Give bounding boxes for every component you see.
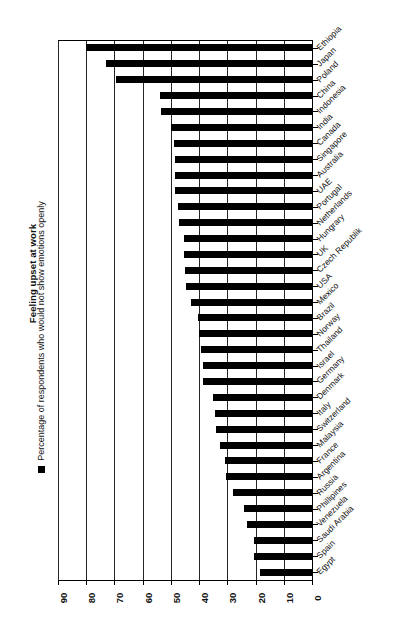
bar-row	[58, 346, 312, 353]
bar-row	[58, 60, 312, 67]
bar	[161, 108, 312, 115]
bar-row	[58, 473, 312, 480]
gridline-10	[284, 40, 285, 580]
bar	[199, 330, 312, 337]
bar	[244, 505, 312, 512]
bar	[178, 203, 312, 210]
bar	[226, 473, 312, 480]
bar-row	[58, 394, 312, 401]
gridline-30	[227, 40, 228, 580]
x-tick-label: 40	[199, 586, 210, 610]
bar	[213, 394, 312, 401]
x-tick-label: 60	[143, 586, 154, 610]
bar-row	[58, 442, 312, 449]
bar	[175, 187, 312, 194]
bar-row	[58, 330, 312, 337]
gridline-40	[199, 40, 200, 580]
bar	[247, 521, 312, 528]
bar-row	[58, 283, 312, 290]
bar	[86, 44, 312, 51]
bar-row	[58, 235, 312, 242]
bar	[179, 219, 312, 226]
legend-square-icon	[38, 466, 45, 473]
chart-legend: Percentage of respondents who would not …	[36, 212, 46, 462]
gridline-60	[143, 40, 144, 580]
bar-row	[58, 426, 312, 433]
x-tick-label: 70	[114, 586, 125, 610]
x-tick	[312, 580, 313, 585]
bar-row	[58, 76, 312, 83]
bar	[203, 362, 312, 369]
x-tick	[171, 580, 172, 585]
gridline-70	[114, 40, 115, 580]
bar	[216, 426, 312, 433]
x-tick	[58, 580, 59, 585]
bar	[225, 457, 312, 464]
x-tick	[143, 580, 144, 585]
bar-row	[58, 457, 312, 464]
bar-row	[58, 187, 312, 194]
gridline-80	[86, 40, 87, 580]
x-tick	[86, 580, 87, 585]
bar	[184, 251, 312, 258]
plot-area	[58, 40, 312, 580]
bar	[191, 299, 312, 306]
bar	[186, 283, 312, 290]
bar-row	[58, 378, 312, 385]
x-axis-tick-labels: 9080706050403020100	[58, 586, 312, 620]
bar-row	[58, 251, 312, 258]
gridline-20	[256, 40, 257, 580]
gridline-90	[58, 40, 59, 580]
bar	[254, 553, 312, 560]
bar	[198, 314, 312, 321]
x-tick-label: 30	[227, 586, 238, 610]
bar	[175, 156, 312, 163]
category-labels: EthiopiaJapanPolandChinaIndonesiaIndiaCa…	[318, 40, 398, 580]
bar	[215, 410, 312, 417]
bar	[233, 489, 312, 496]
bar-row	[58, 489, 312, 496]
bar	[174, 140, 312, 147]
bar-row	[58, 553, 312, 560]
bar-row	[58, 537, 312, 544]
bar	[203, 378, 312, 385]
bar-chart: Feeling upset at work Percentage of resp…	[0, 0, 398, 629]
bar	[184, 235, 312, 242]
gridline-50	[171, 40, 172, 580]
bar	[106, 60, 312, 67]
bar-row	[58, 362, 312, 369]
x-tick	[256, 580, 257, 585]
bar	[171, 124, 312, 131]
x-tick-label: 80	[86, 586, 97, 610]
bar-row	[58, 410, 312, 417]
bar-row	[58, 299, 312, 306]
x-tick-label: 0	[312, 586, 323, 610]
bar-row	[58, 108, 312, 115]
x-tick-label: 50	[171, 586, 182, 610]
bar	[260, 569, 312, 576]
x-tick-label: 10	[284, 586, 295, 610]
x-tick	[227, 580, 228, 585]
bar-row	[58, 203, 312, 210]
bar	[254, 537, 312, 544]
x-tick	[114, 580, 115, 585]
bar-row	[58, 219, 312, 226]
bar	[116, 76, 312, 83]
bar-row	[58, 124, 312, 131]
legend-label: Percentage of respondents who would not …	[36, 201, 46, 461]
bar	[220, 442, 312, 449]
bar-row	[58, 314, 312, 321]
x-tick	[199, 580, 200, 585]
bar-row	[58, 172, 312, 179]
bar-row	[58, 44, 312, 51]
bar-row	[58, 92, 312, 99]
bar	[175, 172, 312, 179]
bar-row	[58, 140, 312, 147]
x-tick-label: 20	[256, 586, 267, 610]
x-tick	[284, 580, 285, 585]
bar	[185, 267, 312, 274]
bar-row	[58, 521, 312, 528]
bar	[160, 92, 312, 99]
bar-row	[58, 505, 312, 512]
bar-row	[58, 267, 312, 274]
